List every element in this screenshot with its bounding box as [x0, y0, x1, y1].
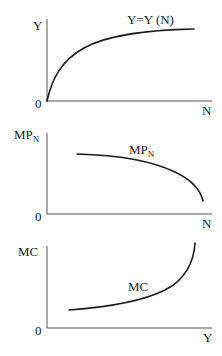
- y-axis-label: MC: [18, 244, 38, 259]
- y-axis-label: MPN: [14, 127, 40, 144]
- x-axis-label: N: [202, 103, 212, 118]
- origin-label: 0: [35, 209, 42, 224]
- panel-production-function: Y N 0 Y=Y (N): [33, 12, 212, 118]
- x-axis-label: Y: [203, 330, 213, 345]
- x-axis-label: N: [202, 216, 212, 231]
- curve-label: MPN: [129, 142, 155, 159]
- mc-curve: [69, 243, 195, 310]
- panel-marginal-product: MPN N 0 MPN: [14, 127, 212, 231]
- panel-marginal-cost: MC Y 0 MC: [18, 243, 213, 345]
- mpn-curve: [77, 154, 203, 201]
- origin-label: 0: [35, 96, 42, 111]
- curve-label: Y=Y (N): [127, 12, 174, 27]
- curve-label: MC: [128, 279, 148, 294]
- origin-label: 0: [35, 323, 42, 338]
- production-curve: [47, 29, 194, 101]
- y-axis-label: Y: [33, 18, 43, 33]
- diagram-canvas: Y N 0 Y=Y (N) MPN N 0 MPN MC Y 0 MC: [0, 0, 222, 356]
